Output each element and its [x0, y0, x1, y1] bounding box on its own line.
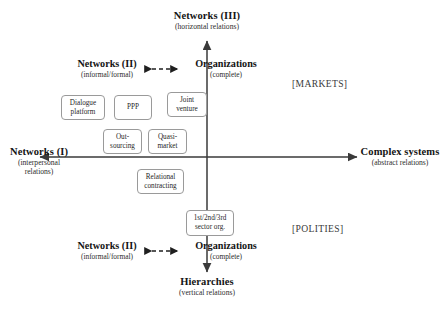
node-box-outsourcing[interactable]: Out-sourcing: [103, 129, 142, 154]
axis-label-right-title: Complex systems: [360, 146, 440, 158]
node-line-1: Relational: [146, 173, 176, 181]
axis-label-bottom-title: Hierarchies: [147, 276, 267, 288]
pair-top-right-subtitle: (complete): [180, 71, 272, 80]
node-box-dialogue-platform[interactable]: Dialogueplatform: [61, 95, 105, 120]
pair-top-right-label: Organizations (complete): [180, 58, 272, 80]
pair-bottom-left-subtitle: (informal/formal): [63, 253, 151, 262]
node-box-text: Relationalcontracting: [144, 173, 176, 191]
node-line-1: Dialogue: [70, 99, 96, 107]
node-box-text: Dialogueplatform: [70, 99, 96, 117]
node-line-2: venture: [176, 105, 198, 113]
node-line-2: sourcing: [110, 142, 135, 150]
axis-label-bottom-subtitle: (vertical relations): [147, 289, 267, 298]
node-box-sector-org[interactable]: 1st/2nd/3rdsector org.: [186, 210, 234, 236]
pair-top-left-label: Networks (II) (informal/formal): [63, 58, 151, 80]
axis-label-left-subtitle: (interpersonal relations): [3, 159, 75, 177]
axis-label-bottom: Hierarchies (vertical relations): [147, 276, 267, 298]
diagram-canvas: Networks (III) (horizontal relations) Hi…: [0, 0, 440, 312]
pair-top-left-subtitle: (informal/formal): [63, 71, 151, 80]
axis-label-left: Networks (I) (interpersonal relations): [3, 146, 75, 177]
pair-bottom-left-label: Networks (II) (informal/formal): [63, 240, 151, 262]
node-line-2: contracting: [144, 182, 176, 190]
node-line-1: PPP: [127, 103, 139, 111]
node-box-text: Out-sourcing: [110, 133, 135, 151]
node-box-text: Jointventure: [176, 96, 198, 114]
axis-label-top-subtitle: (horizontal relations): [147, 23, 267, 32]
node-line-1: 1st/2nd/3rd: [194, 214, 227, 222]
node-box-relational-contracting[interactable]: Relationalcontracting: [137, 169, 184, 194]
pair-bottom-left-title: Networks (II): [63, 240, 151, 252]
axis-label-right-subtitle: (abstract relations): [360, 159, 440, 168]
node-line-1: Joint: [180, 96, 194, 104]
node-line-1: Quasi-: [158, 133, 177, 141]
axis-label-top: Networks (III) (horizontal relations): [147, 10, 267, 32]
node-line-2: market: [158, 142, 178, 150]
pair-bottom-right-label: Organizations (complete): [180, 240, 272, 262]
node-box-text: 1st/2nd/3rdsector org.: [194, 214, 227, 232]
pair-top-right-title: Organizations: [180, 58, 272, 70]
node-line-1: Out-: [116, 133, 129, 141]
pair-bottom-right-subtitle: (complete): [180, 253, 272, 262]
axis-label-left-title: Networks (I): [3, 146, 75, 158]
node-box-text: PPP: [127, 103, 139, 112]
node-box-ppp[interactable]: PPP: [114, 95, 152, 120]
axis-label-top-title: Networks (III): [147, 10, 267, 22]
quadrant-label-polities: [POLITIES]: [292, 223, 343, 234]
node-box-quasi-market[interactable]: Quasi-market: [148, 129, 187, 154]
axis-label-right: Complex systems (abstract relations): [360, 146, 440, 168]
pair-bottom-right-title: Organizations: [180, 240, 272, 252]
node-box-text: Quasi-market: [158, 133, 178, 151]
quadrant-label-markets: [MARKETS]: [292, 78, 347, 89]
node-line-2: platform: [71, 108, 96, 116]
pair-top-left-title: Networks (II): [63, 58, 151, 70]
node-line-2: sector org.: [195, 223, 225, 231]
node-box-joint-venture[interactable]: Jointventure: [167, 92, 207, 117]
